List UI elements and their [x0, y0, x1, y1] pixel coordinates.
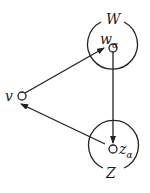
node-w-alpha-main: w — [100, 31, 112, 47]
node-z-alpha-subscript: α — [126, 150, 132, 160]
node-v-label: v — [5, 88, 13, 104]
node-w-alpha-subscript: α — [112, 40, 118, 50]
node-z-alpha — [109, 145, 117, 153]
region-z-label: Z — [105, 165, 116, 181]
diagram-canvas: W Z v wα zα — [0, 0, 150, 193]
edge-v-to-w-alpha — [25, 48, 104, 93]
region-w-label: W — [106, 11, 122, 27]
node-z-alpha-label: zα — [118, 141, 132, 160]
node-v — [18, 92, 26, 100]
edge-z-alpha-to-v — [21, 104, 105, 144]
